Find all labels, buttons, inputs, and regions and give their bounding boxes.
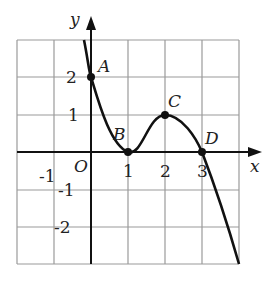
point-c [161, 111, 169, 119]
point-d-label: D [204, 128, 219, 148]
y-axis-label: y [69, 9, 80, 29]
y-axis-arrow-icon [86, 16, 96, 30]
y-tick-neg2: -2 [54, 217, 71, 237]
point-d [198, 148, 206, 156]
x-tick-2: 2 [160, 161, 171, 181]
y-tick-1: 1 [68, 105, 79, 125]
x-tick-neg1: -1 [39, 166, 56, 186]
point-c-label: C [168, 91, 181, 111]
origin-label: O [74, 156, 88, 176]
x-tick-3: 3 [197, 161, 208, 181]
point-a [87, 73, 95, 81]
function-graph: y x O A B C D -1 1 2 3 2 1 -1 -2 [0, 0, 273, 284]
point-a-label: A [96, 56, 110, 76]
point-b [124, 148, 132, 156]
y-tick-neg1: -1 [58, 180, 75, 200]
y-tick-2: 2 [66, 67, 77, 87]
point-b-label: B [112, 124, 126, 144]
x-axis-label: x [250, 156, 260, 176]
x-tick-1: 1 [123, 161, 134, 181]
